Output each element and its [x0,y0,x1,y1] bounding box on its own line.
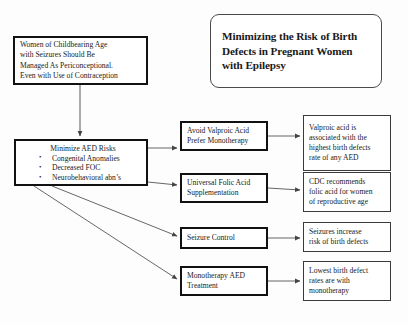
action-box-line: Supplementation [187,188,261,198]
list-item: Decreased FOC [52,163,142,173]
action-box-monotherapy-aed-treatment: Monotherapy AED Treatment [180,266,268,296]
diagram-canvas: Minimizing the Risk of Birth Defects in … [0,0,408,324]
diagram-title-line: Minimizing the Risk of Birth [222,29,370,44]
outcome-box-lowest-birth-defect-rates: Lowest birth defect rates are with monot… [303,261,391,301]
outcome-box-valproic-acid-risk: Valproic acid is associated with the hig… [303,115,391,171]
outcome-box-line: CDC recommends [309,177,385,187]
outcome-box-line: risk of birth defects [309,237,385,247]
intro-box-line: Even with Use of Contraception [20,71,141,81]
action-box-line: Avoid Valproic Acid [187,126,261,136]
outcome-box-line: monotherapy [309,286,385,296]
outcome-box-line: Seizures increase [309,227,385,237]
minimize-aed-risks-box: Minimize AED Risks Congenital Anomalies … [14,139,148,186]
intro-box-line: Managed As Periconceptional. [20,61,141,71]
connector-aed-to-action-2 [148,182,177,185]
outcome-box-line: rate of any AED [309,153,385,163]
outcome-box-cdc-folic-acid: CDC recommends folic acid for women of r… [303,172,391,212]
action-box-line: Universal Folic Acid [187,178,261,188]
intro-box-line: Women of Childbearing Age [20,40,141,50]
diagram-title-line: Defects in Pregnant Women [222,44,370,59]
action-box-universal-folic-acid: Universal Folic Acid Supplementation [180,173,268,203]
aed-risk-list: Congenital Anomalies Decreased FOC Neuro… [20,154,142,183]
action-box-line: Monotherapy AED [187,271,261,281]
list-item: Neurobehavioral abn’s [52,173,142,183]
outcome-box-line: associated with the [309,133,385,143]
connector-aed-to-action-3 [52,186,177,236]
outcome-box-line: Lowest birth defect [309,266,385,276]
outcome-box-line: folic acid for women [309,187,385,197]
action-box-line: Prefer Monotherapy [187,136,261,146]
action-box-seizure-control: Seizure Control [180,227,268,249]
connector-action-2-to-outcome-2 [268,188,300,190]
diagram-title-box: Minimizing the Risk of Birth Defects in … [210,14,382,88]
intro-box-line: with Seizures Should Be [20,50,141,60]
connector-aed-to-action-4 [34,186,177,279]
action-box-avoid-valproic-acid: Avoid Valproic Acid Prefer Monotherapy [180,121,268,151]
outcome-box-line: rates are with [309,276,385,286]
action-box-line: Treatment [187,281,261,291]
outcome-box-line: highest birth defects [309,143,385,153]
intro-box: Women of Childbearing Age with Seizures … [13,36,148,85]
outcome-box-seizures-increase-risk: Seizures increase risk of birth defects [303,222,391,252]
outcome-box-line: of reproductive age [309,197,385,207]
list-item: Congenital Anomalies [52,154,142,164]
outcome-box-line: Valproic acid is [309,123,385,133]
diagram-title-line: with Epilepsy [222,58,370,73]
action-box-line: Seizure Control [187,233,261,243]
